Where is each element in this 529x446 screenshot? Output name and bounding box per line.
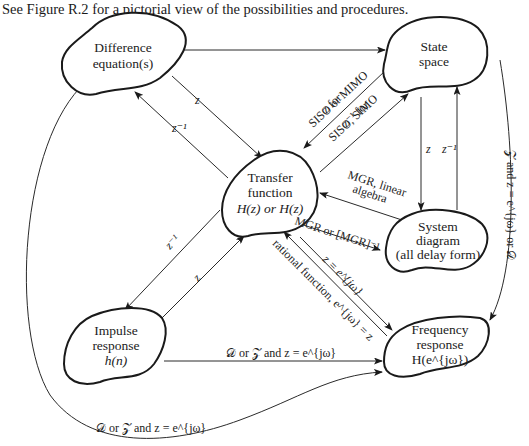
node-frequency-line3: H(e^{jω}) xyxy=(412,352,469,367)
label-system-to-state: z⁻¹ xyxy=(441,142,457,156)
node-frequency-line1: Frequency xyxy=(412,322,469,337)
label-diff-to-freq: 𝒟 or 𝒵 and z = e^{jω} xyxy=(96,421,206,435)
node-system-line1: System xyxy=(418,219,458,234)
label-diff-to-tf: z xyxy=(194,93,200,107)
node-impulse-line1: Impulse xyxy=(94,323,138,338)
node-system-line3: (all delay form) xyxy=(396,247,481,262)
label-tf-to-system: MGR or [MGR]⁻¹ xyxy=(293,214,382,255)
label-state-to-system: z xyxy=(425,142,431,156)
node-difference-line2: equation(s) xyxy=(93,56,154,71)
node-system-diagram: System diagram (all delay form) xyxy=(386,210,488,272)
label-impulse-to-tf: z xyxy=(189,271,203,285)
node-impulse-response: Impulse response h(n) xyxy=(64,308,166,384)
node-state-space: State space xyxy=(383,17,487,92)
node-transfer-line3: H(z) or H(z) xyxy=(236,201,304,216)
node-transfer-line1: Transfer xyxy=(247,170,293,185)
node-impulse-line2: response xyxy=(92,338,139,353)
node-frequency-response: Frequency response H(e^{jω}) xyxy=(384,317,489,377)
node-system-line2: diagram xyxy=(416,233,461,248)
node-state-line1: State xyxy=(421,39,448,54)
node-difference-line1: Difference xyxy=(94,40,151,55)
edge-tf-to-diff xyxy=(135,92,228,178)
node-impulse-line3: h(n) xyxy=(105,353,128,368)
edge-tf-to-impulse xyxy=(125,210,220,310)
label-tf-to-impulse: z⁻¹ xyxy=(161,232,182,253)
node-frequency-line2: response xyxy=(416,337,463,352)
node-transfer-line2: function xyxy=(248,185,293,200)
transform-diagram: Difference equation(s) State space Trans… xyxy=(0,0,529,446)
node-state-line2: space xyxy=(419,54,449,69)
node-difference-equations: Difference equation(s) xyxy=(62,13,186,95)
label-tf-to-diff: z⁻¹ xyxy=(171,121,187,135)
label-state-to-freq: 𝒵 and z = e^{jω} or 𝒟 xyxy=(504,150,518,260)
edge-diff-to-tf xyxy=(172,76,262,158)
label-impulse-to-freq: 𝒟 or 𝒵 and z = e^{jω} xyxy=(226,346,336,360)
